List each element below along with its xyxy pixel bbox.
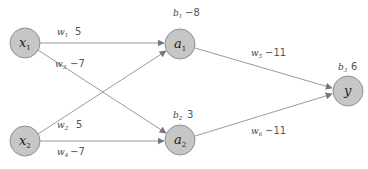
weight-value: −7 [70, 146, 85, 157]
node-a2: a2 [165, 125, 195, 155]
weight-value: −7 [70, 58, 85, 69]
node-symbol: y [343, 83, 352, 98]
weight-label-w3: w3 −7 [55, 58, 85, 70]
bias-label-b3: b3 6 [338, 61, 357, 73]
weight-value: −11 [265, 125, 286, 136]
svg-text:b3: b3 [338, 62, 348, 73]
bias-value: −8 [185, 7, 200, 18]
weight-label-w4: w4 −7 [57, 146, 85, 158]
weight-label-w1: w1 5 [57, 26, 81, 38]
bias-value: 6 [351, 61, 357, 72]
edge-a1-y [195, 48, 332, 88]
svg-text:w1: w1 [57, 27, 68, 38]
weight-value: 5 [75, 26, 81, 37]
node-x1: x1 [10, 28, 40, 58]
svg-text:b1: b1 [173, 8, 182, 19]
bias-value: 3 [187, 109, 193, 120]
svg-text:w6: w6 [251, 126, 263, 137]
weight-label-w6: w6 −11 [251, 125, 286, 137]
node-y: y [333, 76, 363, 106]
svg-text:w3: w3 [55, 59, 67, 70]
svg-text:w5: w5 [251, 48, 263, 59]
weight-value: −11 [265, 47, 286, 58]
weight-label-w2: w2 5 [57, 119, 82, 131]
svg-text:w4: w4 [57, 147, 69, 158]
node-a1: a1 [165, 29, 195, 59]
svg-text:b2: b2 [173, 110, 183, 121]
svg-text:w2: w2 [57, 120, 69, 131]
bias-label-b1: b1 −8 [173, 7, 200, 19]
weight-value: 5 [76, 119, 82, 130]
node-x2: x2 [10, 126, 40, 156]
weight-label-w5: w5 −11 [251, 47, 286, 59]
bias-label-b2: b2 3 [173, 109, 193, 121]
edge-a2-y [195, 94, 332, 136]
neural-network-diagram: x1 x2 a1 a2 y b1 −8 b2 3 [0, 0, 368, 169]
